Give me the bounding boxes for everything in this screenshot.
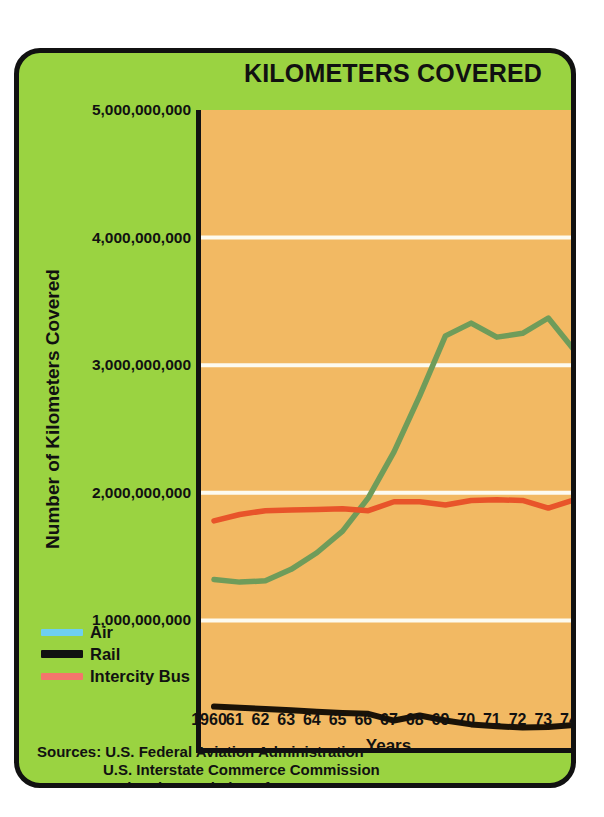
sources-line: U.S. Interstate Commerce Commission <box>37 761 567 779</box>
x-tick-label: 70 <box>457 711 475 729</box>
y-tick-label: 5,000,000,000 <box>25 101 191 119</box>
x-tick-label: 62 <box>252 711 270 729</box>
sources-line: Sources: U.S. Federal Aviation Administr… <box>37 743 567 761</box>
legend-swatch-icon <box>41 673 83 680</box>
legend-label: Intercity Bus <box>90 667 190 686</box>
x-tick-label: 68 <box>406 711 424 729</box>
sources-line: National Association of Motor Bus Owners <box>37 779 567 788</box>
x-tick-label: 69 <box>432 711 450 729</box>
series-line-air <box>214 318 574 582</box>
x-tick-label: 64 <box>303 711 321 729</box>
x-tick-label: 1960 <box>191 711 227 729</box>
x-tick-label: 66 <box>354 711 372 729</box>
x-tick-label: 74 <box>560 711 576 729</box>
legend-item-rail: Rail <box>41 643 191 665</box>
legend-label: Rail <box>90 645 120 664</box>
x-tick-label: 67 <box>380 711 398 729</box>
x-tick-label: 72 <box>509 711 527 729</box>
chart-legend: AirRailIntercity Bus <box>41 621 191 687</box>
sources-block: Sources: U.S. Federal Aviation Administr… <box>37 743 567 788</box>
legend-swatch-icon <box>41 650 83 658</box>
legend-item-air: Air <box>41 621 191 643</box>
x-tick-label: 73 <box>534 711 552 729</box>
x-tick-label: 71 <box>483 711 501 729</box>
y-tick-label: 2,000,000,000 <box>25 484 191 502</box>
plot-svg <box>201 110 576 748</box>
x-tick-label: 65 <box>329 711 347 729</box>
gridlines <box>201 238 576 621</box>
legend-item-intercity-bus: Intercity Bus <box>41 665 191 687</box>
series-line-intercity-bus <box>214 500 574 521</box>
chart-card: KILOMETERS COVERED Number of Kilometers … <box>14 48 576 788</box>
chart-title: KILOMETERS COVERED <box>205 61 576 86</box>
y-tick-label: 4,000,000,000 <box>25 229 191 247</box>
y-tick-label: 3,000,000,000 <box>25 356 191 374</box>
legend-label: Air <box>90 623 113 642</box>
x-tick-label: 61 <box>226 711 244 729</box>
x-tick-label: 63 <box>277 711 295 729</box>
x-axis-tick-labels: 19606162636465666768697071727374 <box>19 711 576 737</box>
legend-swatch-icon <box>41 629 83 636</box>
plot-area <box>196 110 576 753</box>
series-lines <box>214 318 574 728</box>
